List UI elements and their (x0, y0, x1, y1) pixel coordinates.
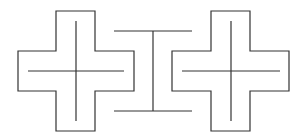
right-cross (172, 11, 289, 131)
diagram-canvas (0, 0, 305, 139)
center-i-beam (114, 31, 192, 111)
left-cross (18, 11, 134, 131)
